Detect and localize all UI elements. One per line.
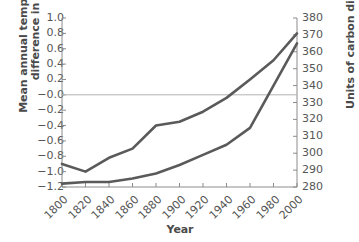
- chart-figure: Mean annual temperature difference in °C…: [0, 0, 359, 242]
- plot-area: [0, 0, 359, 242]
- axis-spines: [62, 18, 297, 187]
- series-line: [62, 43, 297, 183]
- data-series: [62, 33, 297, 183]
- series-line: [62, 33, 297, 171]
- tick-marks: [62, 18, 297, 187]
